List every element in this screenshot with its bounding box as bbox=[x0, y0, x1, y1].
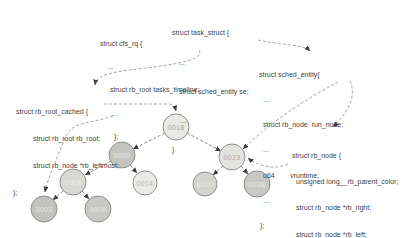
code-line: }; bbox=[13, 188, 119, 197]
node-label: 0020 bbox=[197, 181, 214, 188]
diagram-canvas: 0018 0009 0023 0004 0014 0020 0028 0003 bbox=[0, 0, 417, 238]
ellipsis-line: ... bbox=[179, 58, 249, 68]
code-line: struct rb_root rb_root; bbox=[33, 134, 119, 143]
node-label: 0014 bbox=[137, 180, 154, 187]
arrow-se-to-sched-entity bbox=[258, 40, 310, 51]
code-line: struct rb_node *rb_right; bbox=[296, 204, 398, 213]
ellipsis-line: ... bbox=[263, 96, 343, 104]
code-line: struct rb_node run_node; bbox=[263, 121, 343, 129]
code-line: struct rb_node *rb_left; bbox=[296, 231, 398, 238]
code-line: struct sched_entity se; bbox=[179, 87, 249, 97]
code-line: struct rb_node { bbox=[292, 152, 398, 161]
code-block-rb-root-cached: struct rb_root_cached { struct rb_root r… bbox=[13, 89, 119, 215]
code-line: struct rb_root_cached { bbox=[16, 107, 119, 116]
code-line: unsigned long__rb_parent_color; bbox=[296, 178, 398, 187]
code-line: } bbox=[172, 145, 249, 155]
rbtree-node-0020: 0020 bbox=[193, 172, 217, 196]
code-block-task-struct: struct task_struct { ... struct sched_en… bbox=[172, 9, 249, 174]
rbtree-node-0014: 0014 bbox=[133, 171, 157, 195]
code-line: struct sched_entity{ bbox=[259, 71, 343, 79]
code-line: struct rb_node *rb_leftmost; bbox=[33, 161, 119, 170]
code-block-rb-node: struct rb_node { unsigned long__rb_paren… bbox=[292, 134, 398, 238]
ellipsis-line: ... bbox=[180, 116, 249, 126]
code-line: struct task_struct { bbox=[172, 28, 249, 38]
edge-0009-0014 bbox=[130, 165, 137, 173]
